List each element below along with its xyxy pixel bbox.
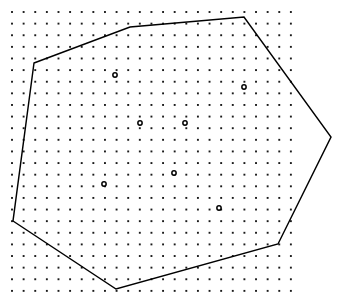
lattice-dot	[92, 162, 94, 164]
lattice-dot	[58, 81, 60, 83]
lattice-dot	[116, 290, 118, 292]
lattice-dot	[69, 92, 71, 94]
lattice-dot	[104, 104, 106, 106]
lattice-dot	[278, 278, 280, 280]
lattice-dot	[150, 243, 152, 245]
lattice-dot	[162, 243, 164, 245]
lattice-dot	[11, 92, 13, 94]
lattice-dot	[116, 255, 118, 257]
lattice-dot	[34, 185, 36, 187]
lattice-dot	[267, 11, 269, 13]
lattice-dot	[69, 69, 71, 71]
lattice-dot	[220, 232, 222, 234]
lattice-dot	[278, 174, 280, 176]
lattice-dot	[81, 139, 83, 141]
lattice-dot	[255, 81, 257, 83]
lattice-dot	[92, 116, 94, 118]
lattice-dot	[139, 81, 141, 83]
lattice-dot	[92, 278, 94, 280]
figure-canvas	[0, 0, 353, 307]
lattice-dot	[232, 278, 234, 280]
lattice-dot	[150, 11, 152, 13]
lattice-dot	[23, 81, 25, 83]
lattice-dot	[232, 34, 234, 36]
lattice-dot	[267, 197, 269, 199]
lattice-dot	[290, 34, 292, 36]
lattice-dot	[92, 220, 94, 222]
lattice-dot	[243, 232, 245, 234]
lattice-dot	[34, 34, 36, 36]
lattice-dot	[92, 81, 94, 83]
lattice-dot	[162, 69, 164, 71]
lattice-dot	[197, 34, 199, 36]
lattice-dot	[46, 116, 48, 118]
lattice-dot	[69, 197, 71, 199]
lattice-dot	[139, 232, 141, 234]
lattice-dot	[23, 162, 25, 164]
lattice-dot	[290, 255, 292, 257]
lattice-dot	[139, 290, 141, 292]
lattice-dot	[290, 150, 292, 152]
lattice-dot	[185, 127, 187, 129]
lattice-dot	[243, 127, 245, 129]
lattice-dot	[69, 174, 71, 176]
lattice-dot	[127, 255, 129, 257]
lattice-dot	[290, 290, 292, 292]
lattice-dot	[58, 290, 60, 292]
lattice-dot	[162, 127, 164, 129]
lattice-dot	[278, 255, 280, 257]
lattice-dot	[81, 150, 83, 152]
lattice-dot	[278, 34, 280, 36]
lattice-dot	[209, 81, 211, 83]
lattice-dot	[278, 69, 280, 71]
lattice-dot	[116, 46, 118, 48]
lattice-dot	[174, 46, 176, 48]
lattice-dot	[278, 232, 280, 234]
lattice-dot	[278, 267, 280, 269]
lattice-dot	[23, 197, 25, 199]
lattice-dot	[209, 209, 211, 211]
lattice-dot	[150, 209, 152, 211]
lattice-dot	[46, 255, 48, 257]
lattice-dot	[243, 174, 245, 176]
lattice-dot	[11, 278, 13, 280]
lattice-dot	[209, 267, 211, 269]
lattice-dot	[209, 116, 211, 118]
lattice-dot	[139, 278, 141, 280]
lattice-dot	[34, 174, 36, 176]
lattice-dot	[174, 104, 176, 106]
lattice-dot	[46, 81, 48, 83]
lattice-dot	[267, 150, 269, 152]
lattice-dot	[278, 81, 280, 83]
lattice-dot	[69, 220, 71, 222]
lattice-dot	[197, 116, 199, 118]
lattice-dot	[267, 220, 269, 222]
lattice-dot	[197, 104, 199, 106]
lattice-dot	[81, 220, 83, 222]
lattice-dot	[243, 58, 245, 60]
lattice-dot	[255, 220, 257, 222]
lattice-dot	[209, 58, 211, 60]
lattice-dot	[243, 92, 245, 94]
lattice-dot	[197, 162, 199, 164]
lattice-dot	[127, 220, 129, 222]
lattice-dot	[116, 209, 118, 211]
lattice-dot	[23, 174, 25, 176]
lattice-dot	[209, 278, 211, 280]
lattice-dot	[220, 255, 222, 257]
lattice-dot	[232, 23, 234, 25]
convex-hull-polygon	[13, 17, 331, 289]
lattice-dot	[92, 69, 94, 71]
lattice-dot	[34, 220, 36, 222]
lattice-dot	[185, 232, 187, 234]
lattice-dot	[290, 243, 292, 245]
lattice-dot	[139, 185, 141, 187]
lattice-dot	[197, 81, 199, 83]
lattice-dot	[34, 139, 36, 141]
lattice-dot	[209, 220, 211, 222]
lattice-dot	[150, 232, 152, 234]
lattice-dot	[23, 220, 25, 222]
lattice-dot	[116, 197, 118, 199]
lattice-dot	[220, 162, 222, 164]
lattice-dot	[116, 243, 118, 245]
